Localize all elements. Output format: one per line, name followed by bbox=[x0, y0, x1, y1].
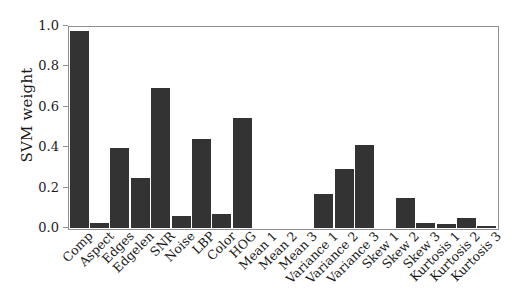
bar-series bbox=[69, 27, 497, 228]
bar bbox=[396, 198, 415, 228]
svm-weight-bar-chart: SVM weight 0.00.20.40.60.81.0 CompAspect… bbox=[0, 0, 521, 290]
y-tick-mark bbox=[63, 146, 68, 147]
bar bbox=[131, 178, 150, 228]
y-tick-label: 1.0 bbox=[38, 17, 59, 34]
bar bbox=[355, 145, 374, 228]
bar bbox=[314, 194, 333, 228]
y-tick-label: 0.6 bbox=[38, 98, 59, 115]
bar bbox=[70, 31, 89, 228]
bar bbox=[212, 214, 231, 228]
y-tick-mark bbox=[63, 65, 68, 66]
y-tick-mark bbox=[63, 25, 68, 26]
y-tick-label: 0.2 bbox=[38, 179, 59, 196]
bar bbox=[192, 139, 211, 228]
x-axis-tick-labels: CompAspectEdgesEdgelenSNRNoiseLBPColorHO… bbox=[69, 229, 497, 290]
bar bbox=[335, 169, 354, 228]
bar bbox=[172, 216, 191, 228]
y-tick-label: 0.0 bbox=[38, 219, 59, 236]
y-tick-mark bbox=[63, 187, 68, 188]
bar bbox=[457, 218, 476, 228]
y-tick-label: 0.8 bbox=[38, 57, 59, 74]
bar bbox=[437, 224, 456, 228]
y-tick-mark bbox=[63, 106, 68, 107]
bar bbox=[151, 88, 170, 228]
y-tick-mark bbox=[63, 227, 68, 228]
y-tick-label: 0.4 bbox=[38, 138, 59, 155]
y-axis-title: SVM weight bbox=[14, 0, 40, 230]
bar bbox=[110, 148, 129, 228]
bar bbox=[233, 118, 252, 228]
bar bbox=[416, 223, 435, 228]
